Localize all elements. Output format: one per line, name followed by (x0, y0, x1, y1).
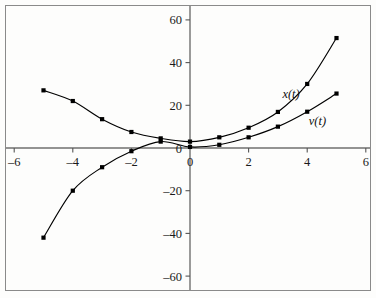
data-point-marker (188, 140, 192, 144)
data-point-marker (41, 88, 45, 92)
data-point-marker (71, 189, 75, 193)
data-point-marker (217, 143, 221, 147)
figure: –6–4–20246–60–40–200204060x(t)v(t) (0, 0, 376, 298)
x-tick-label: –2 (124, 155, 138, 169)
y-tick-label: 60 (170, 13, 183, 27)
x-tick-label: 0 (187, 155, 193, 169)
data-point-marker (305, 82, 309, 86)
data-point-marker (247, 126, 251, 130)
data-point-marker (276, 110, 280, 114)
x-tick-label: 2 (245, 155, 251, 169)
data-point-marker (188, 145, 192, 149)
y-tick-label: 40 (170, 56, 183, 70)
data-point-marker (159, 140, 163, 144)
data-point-marker (100, 165, 104, 169)
y-tick-label: 20 (170, 99, 183, 113)
curve-label-xt: x(t) (281, 87, 299, 101)
chart-canvas: –6–4–20246–60–40–200204060x(t)v(t) (0, 0, 376, 298)
x-tick-label: –4 (66, 155, 80, 169)
x-tick-label: –6 (7, 155, 21, 169)
data-point-marker (217, 135, 221, 139)
data-point-marker (41, 236, 45, 240)
data-point-marker (71, 99, 75, 103)
y-tick-label: –20 (162, 184, 182, 198)
curve-label-vt: v(t) (309, 114, 326, 128)
data-point-marker (247, 135, 251, 139)
data-point-marker (334, 36, 338, 40)
data-point-marker (100, 117, 104, 121)
y-tick-label: –60 (162, 270, 182, 284)
data-point-marker (129, 149, 133, 153)
data-point-marker (129, 130, 133, 134)
data-point-marker (276, 125, 280, 129)
data-point-marker (334, 91, 338, 95)
x-tick-label: 6 (363, 155, 369, 169)
x-tick-label: 4 (304, 155, 311, 169)
y-tick-label: –40 (162, 227, 182, 241)
